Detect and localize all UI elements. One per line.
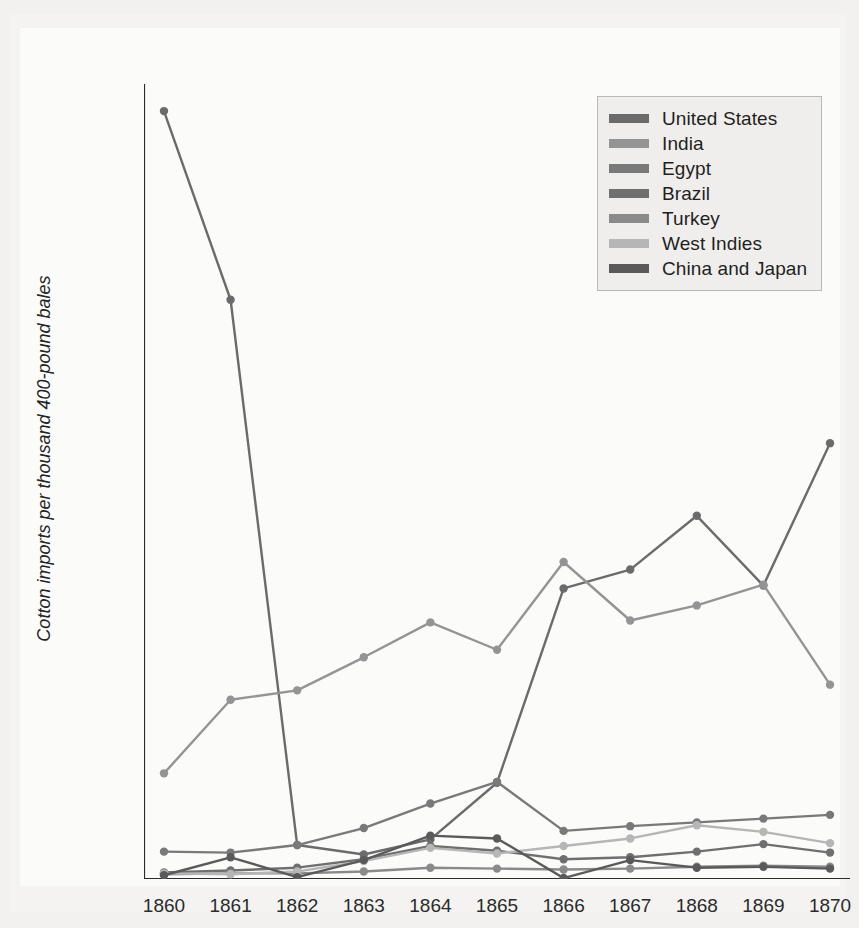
x-tick-label: 1861 <box>209 895 251 917</box>
x-tick-labels: 1860186118621863186418651866186718681869… <box>0 0 859 928</box>
x-tick-label: 1866 <box>542 895 584 917</box>
scanned-page: Cotton imports per thousand 400-pound ba… <box>0 0 859 928</box>
x-tick-label: 1868 <box>676 895 718 917</box>
x-tick-label: 1867 <box>609 895 651 917</box>
x-tick-label: 1860 <box>143 895 185 917</box>
x-tick-label: 1864 <box>409 895 451 917</box>
x-tick-label: 1869 <box>742 895 784 917</box>
x-tick-label: 1862 <box>276 895 318 917</box>
x-tick-label: 1863 <box>343 895 385 917</box>
x-tick-label: 1865 <box>476 895 518 917</box>
x-tick-label: 1870 <box>809 895 851 917</box>
